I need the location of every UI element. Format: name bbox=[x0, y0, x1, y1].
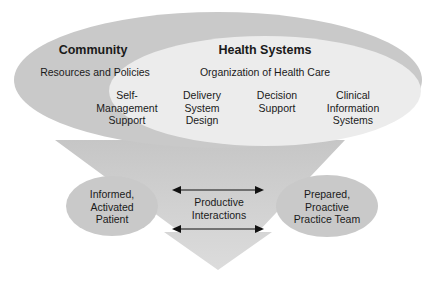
practice-team-label: Prepared, Proactive Practice Team bbox=[280, 188, 374, 226]
component-delivery-system-design: Delivery System Design bbox=[172, 89, 232, 127]
health-systems-title: Health Systems bbox=[210, 44, 320, 57]
component-self-management-support: Self- Management Support bbox=[92, 89, 162, 127]
community-title: Community bbox=[48, 44, 138, 57]
component-clinical-information-systems: Clinical Information Systems bbox=[318, 89, 388, 127]
component-decision-support: Decision Support bbox=[247, 89, 307, 114]
health-systems-subtitle: Organization of Health Care bbox=[190, 66, 340, 79]
patient-label: Informed, Activated Patient bbox=[72, 188, 152, 226]
community-subtitle: Resources and Policies bbox=[30, 66, 160, 79]
productive-interactions-label: Productive Interactions bbox=[178, 196, 260, 221]
